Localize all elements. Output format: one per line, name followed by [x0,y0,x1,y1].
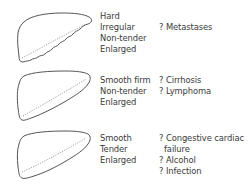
feature-label: Smooth firm [100,75,151,86]
feature-label: Enlarged [100,155,136,166]
cause-label: ? Cirrhosis [159,75,211,86]
cause-label: ? Congestive cardiac [159,133,244,144]
cause-label: ? Lymphoma [159,86,211,97]
features-list: Smooth Tender Enlarged [100,133,136,166]
causes-list: ? Metastases [159,22,212,33]
cause-label: ? Metastases [159,22,212,33]
cause-label: failure [159,144,244,155]
liver-smooth-outline-icon [0,64,100,124]
feature-label: Irregular [100,22,146,33]
cause-label: ? Alcohol [159,155,244,166]
feature-label: Enlarged [100,44,146,55]
cause-label: ? Infection [159,166,244,177]
causes-list: ? Congestive cardiac failure ? Alcohol ?… [159,133,244,177]
features-list: Smooth firm Non-tender Enlarged [100,75,151,108]
feature-label: Tender [100,144,136,155]
liver-irregular-outline-icon [0,0,100,68]
features-list: Hard Irregular Non-tender Enlarged [100,11,146,55]
feature-label: Non-tender [100,33,146,44]
feature-label: Non-tender [100,86,151,97]
causes-list: ? Cirrhosis ? Lymphoma [159,75,211,97]
feature-label: Smooth [100,133,136,144]
feature-label: Hard [100,11,146,22]
liver-smooth-outline-icon [0,124,100,184]
feature-label: Enlarged [100,97,151,108]
